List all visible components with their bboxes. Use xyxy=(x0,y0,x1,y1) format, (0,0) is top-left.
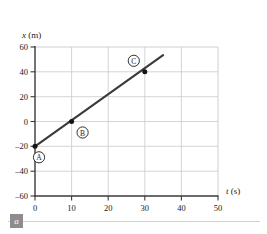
x-axis-title: t (s) xyxy=(226,186,240,196)
annotation-a: A xyxy=(33,152,44,163)
data-point-b xyxy=(69,119,74,124)
y-tick-labels: 60 40 20 0 –20 –40 –60 xyxy=(14,42,28,201)
xtick-label-20: 20 xyxy=(104,203,113,213)
figure-caption-strip: a xyxy=(0,214,267,230)
x-tick-labels: 0 10 20 30 40 50 xyxy=(33,203,222,213)
annotation-b-label: B xyxy=(80,129,85,138)
ytick-label-neg20: –20 xyxy=(14,141,28,151)
xtick-label-0: 0 xyxy=(33,203,37,213)
horizontal-gridlines xyxy=(35,72,218,171)
xtick-label-30: 30 xyxy=(141,203,150,213)
annotation-a-label: A xyxy=(36,153,42,162)
ytick-label-neg60: –60 xyxy=(14,191,28,201)
xtick-label-50: 50 xyxy=(214,203,223,213)
ytick-label-20: 20 xyxy=(20,92,29,102)
ytick-label-0: 0 xyxy=(24,117,28,127)
data-line-series-0 xyxy=(35,55,163,146)
figure-panel: 60 40 20 0 –20 –40 –60 0 10 20 30 40 50 … xyxy=(0,0,267,234)
ytick-label-40: 40 xyxy=(20,67,29,77)
xtick-label-10: 10 xyxy=(67,203,76,213)
y-axis-title-unit: (m) xyxy=(28,30,41,40)
data-point-c xyxy=(142,69,147,74)
y-axis-title: x (m) xyxy=(21,30,41,40)
caption-divider-rule xyxy=(8,221,260,222)
annotation-c-label: C xyxy=(131,57,136,66)
x-axis-title-unit: (s) xyxy=(231,186,241,196)
ytick-label-neg40: –40 xyxy=(14,166,28,176)
position-time-chart: 60 40 20 0 –20 –40 –60 0 10 20 30 40 50 … xyxy=(0,0,267,234)
caption-letter-badge: a xyxy=(10,214,23,228)
annotation-b: B xyxy=(77,127,88,138)
data-point-a xyxy=(33,144,38,149)
ytick-label-60: 60 xyxy=(20,42,29,52)
xtick-label-40: 40 xyxy=(177,203,186,213)
annotation-c: C xyxy=(128,55,139,66)
